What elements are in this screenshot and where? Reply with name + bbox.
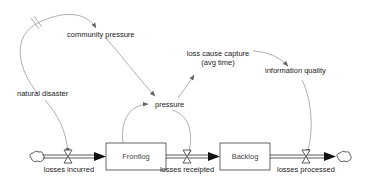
link-frontlog-to-pressure xyxy=(122,104,148,143)
variable-loss-cause-capture[interactable]: loss cause capture xyxy=(187,49,250,58)
variable-community-pressure[interactable]: community pressure xyxy=(67,30,135,39)
variable-information-quality[interactable]: information quality xyxy=(265,66,326,75)
flow-label-losses-receipted: losses receipted xyxy=(160,165,214,174)
link-pressure-to-loss-cause-capture xyxy=(178,75,194,98)
flow-label-losses-incurred: losses incurred xyxy=(44,165,94,174)
flow-pipe-losses-processed xyxy=(270,152,336,161)
variable-natural-disaster[interactable]: natural disaster xyxy=(17,89,69,98)
valve-losses-processed-icon[interactable] xyxy=(302,150,310,163)
link-information-quality-to-losses-processed xyxy=(302,80,311,154)
valve-losses-receipted-icon[interactable] xyxy=(183,150,191,163)
stock-label-backlog: Backlog xyxy=(232,152,259,161)
flow-pipe-losses-receipted xyxy=(166,152,220,161)
flow-pipe-losses-incurred xyxy=(43,152,106,161)
link-loss-cause-capture-to-information-quality xyxy=(253,51,288,66)
link-pressure-to-losses-receipted xyxy=(172,110,191,155)
variable-pressure[interactable]: pressure xyxy=(155,100,184,109)
variable-loss-cause-capture-line2: (avg time) xyxy=(201,58,235,67)
link-natural-disaster-to-losses-incurred xyxy=(45,100,68,153)
stock-flow-diagram: losses incurred Frontlog losses receipte… xyxy=(0,0,366,179)
source-cloud-icon xyxy=(30,151,45,162)
link-community-pressure-to-pressure xyxy=(105,37,155,96)
flow-label-losses-processed: losses processed xyxy=(277,165,335,174)
link-natural-disaster-to-community-pressure xyxy=(20,14,96,94)
sink-cloud-icon xyxy=(337,151,352,162)
valve-losses-incurred-icon[interactable] xyxy=(64,150,72,163)
delay-mark-icon xyxy=(31,16,42,29)
stock-label-frontlog: Frontlog xyxy=(122,152,150,161)
